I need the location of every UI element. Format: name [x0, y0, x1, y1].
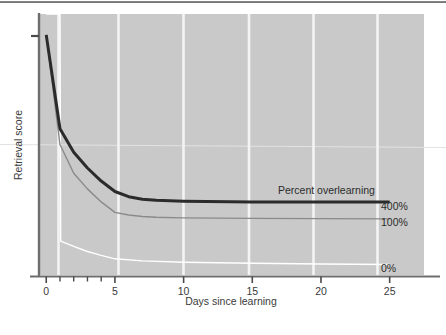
- plot-area-background: [38, 14, 424, 275]
- x-axis-tick-label: 25: [384, 285, 396, 297]
- series-label-0-percent: 0%: [381, 262, 396, 274]
- y-axis-title: Retrieval score: [12, 110, 24, 180]
- x-axis-tick-label: 5: [112, 285, 118, 297]
- x-axis-tick-label: 20: [315, 285, 327, 297]
- retrieval-score-line-chart: 0510152025 Days since learning Retrieval…: [0, 0, 446, 335]
- series-label-100-percent: 100%: [381, 216, 408, 228]
- legend-title-percent-overlearning: Percent overlearning: [278, 184, 375, 196]
- figure-canvas: 0510152025 Days since learning Retrieval…: [0, 0, 446, 335]
- x-axis-tick-label: 0: [43, 285, 49, 297]
- series-label-400-percent: 400%: [381, 200, 408, 212]
- x-axis-title: Days since learning: [185, 295, 277, 307]
